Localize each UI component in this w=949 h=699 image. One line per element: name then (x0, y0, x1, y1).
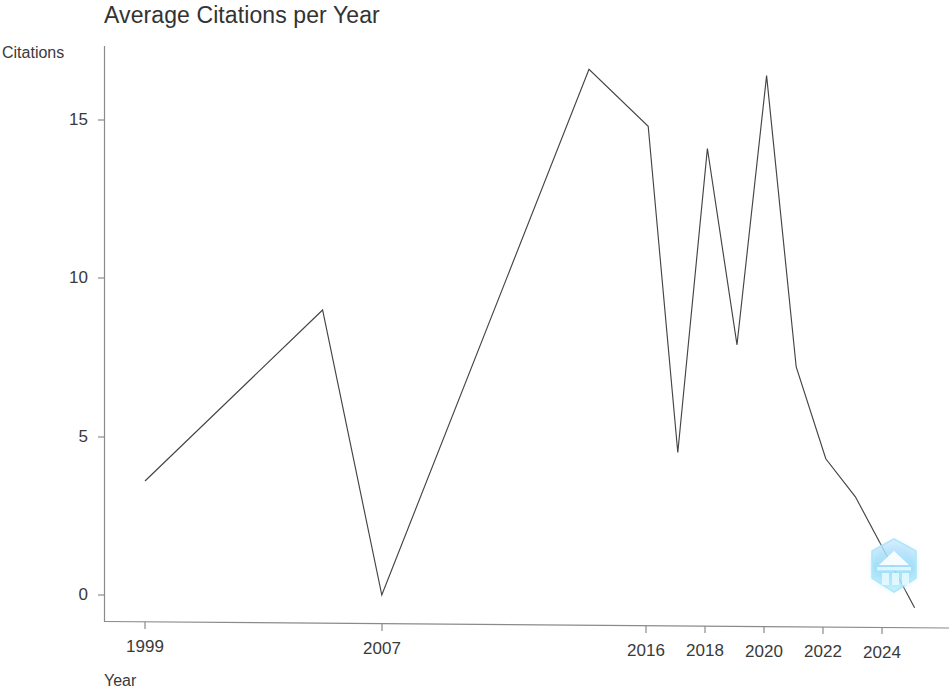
x-tick-marks (145, 622, 882, 634)
y-tick-label-10: 10 (28, 268, 88, 288)
y-tick-label-15: 15 (28, 110, 88, 130)
y-tick-label-5: 5 (28, 427, 88, 447)
x-tick-label-2007: 2007 (347, 639, 417, 659)
x-tick-label-2024: 2024 (847, 643, 917, 663)
x-axis-line (105, 622, 949, 629)
y-tick-label-0: 0 (28, 585, 88, 605)
citations-chart-figure: Average Citations per Year Citations Yea… (0, 0, 949, 699)
citations-data-line (145, 69, 915, 607)
x-tick-label-1999: 1999 (110, 637, 180, 657)
plot-area (0, 0, 949, 699)
